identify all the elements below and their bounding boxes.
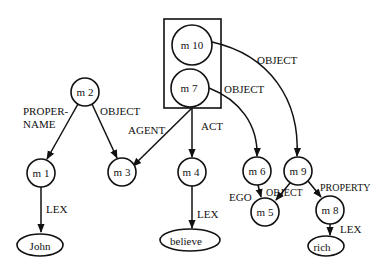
arc-label-m2-m1-line2: NAME xyxy=(23,118,56,130)
node-m4: m 4 xyxy=(178,158,206,186)
node-rich: rich xyxy=(308,236,344,256)
node-m9-label: m 9 xyxy=(290,165,307,177)
edge-m6-m5 xyxy=(258,185,261,197)
semantic-network-diagram: m 10 m 7 m 2 m 1 m 3 m 4 m 6 m 9 m 5 m 8… xyxy=(0,0,389,271)
node-m6: m 6 xyxy=(243,157,271,185)
node-m2-label: m 2 xyxy=(77,86,94,98)
node-m4-label: m 4 xyxy=(183,166,200,178)
node-m7-label: m 7 xyxy=(181,82,198,94)
arc-label-m7-m4: ACT xyxy=(201,120,223,132)
node-m3: m 3 xyxy=(108,158,136,186)
node-m6-label: m 6 xyxy=(249,165,266,177)
node-m5-label: m 5 xyxy=(257,206,274,218)
node-m3-label: m 3 xyxy=(114,166,131,178)
arc-label-m4-believe: LEX xyxy=(197,208,218,220)
node-rich-label: rich xyxy=(313,241,331,253)
node-m8: m 8 xyxy=(316,196,344,224)
node-john: John xyxy=(17,234,63,256)
edge-m7-m3 xyxy=(133,108,192,166)
arc-label-m8-rich: LEX xyxy=(340,223,361,235)
arc-label-m1-john: LEX xyxy=(46,203,67,215)
node-believe-label: believe xyxy=(170,235,202,247)
node-m10-label: m 10 xyxy=(181,39,204,51)
node-m1-label: m 1 xyxy=(33,167,50,179)
arc-label-m7-m6: OBJECT xyxy=(224,83,265,95)
node-m1: m 1 xyxy=(27,159,55,187)
node-believe: believe xyxy=(160,229,220,251)
node-m2: m 2 xyxy=(71,78,99,106)
arc-label-m10-m9: OBJECT xyxy=(257,54,298,66)
node-m7: m 7 xyxy=(171,69,209,107)
arc-label-m2-m1-line1: PROPER- xyxy=(23,105,69,117)
node-m9: m 9 xyxy=(284,157,312,185)
arc-label-m9-m5: OBJECT xyxy=(266,187,303,198)
node-john-label: John xyxy=(30,240,51,252)
node-m5: m 5 xyxy=(251,198,279,226)
node-m10: m 10 xyxy=(172,25,212,65)
node-m8-label: m 8 xyxy=(322,204,339,216)
arc-label-m7-m3: AGENT xyxy=(128,124,166,136)
arc-label-m2-m3: OBJECT xyxy=(100,105,141,117)
arc-label-m9-m8: PROPERTY xyxy=(320,182,371,193)
arc-label-m6-m5: EGO xyxy=(229,191,252,203)
